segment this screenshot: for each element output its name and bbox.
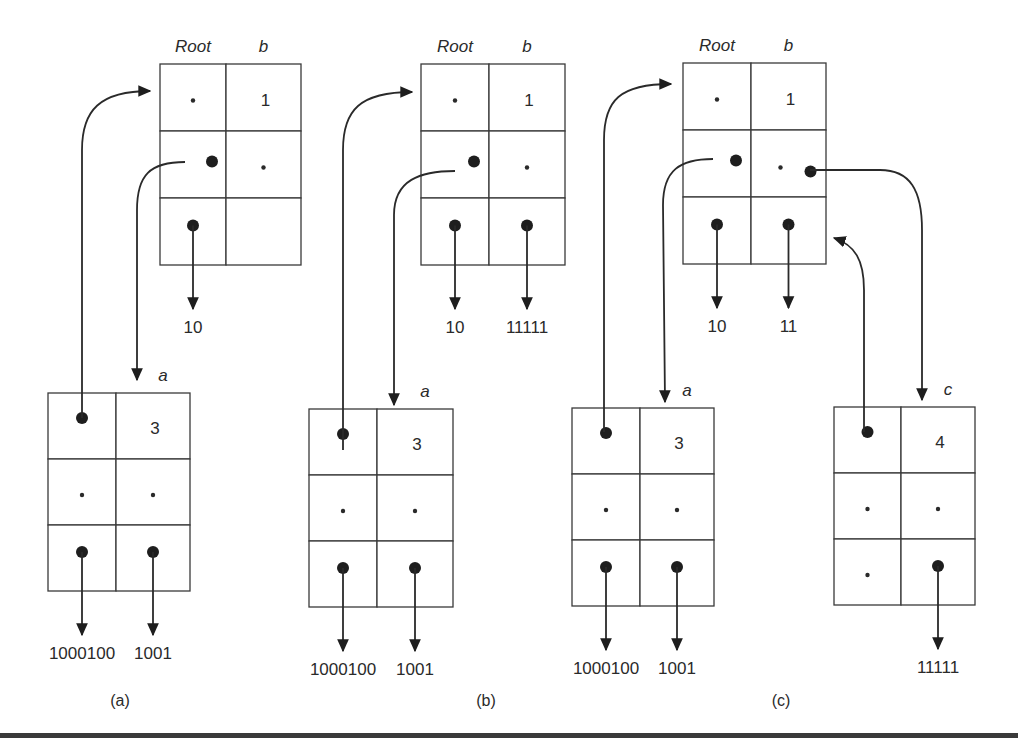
null-marker-dot <box>715 97 719 101</box>
output-value: 1000100 <box>49 644 115 663</box>
table-c-c: 4 <box>834 407 975 605</box>
cell-value: 1 <box>261 91 270 110</box>
cell-value: 3 <box>674 434 683 453</box>
table-cell <box>572 474 640 540</box>
cell-value: 1 <box>524 91 533 110</box>
panel-caption: (c) <box>772 692 791 709</box>
output-value: 10 <box>708 317 727 336</box>
pointer-dot <box>805 166 817 178</box>
panel-caption: (b) <box>476 692 496 709</box>
output-value: 11 <box>780 317 798 336</box>
panel-caption: (a) <box>110 692 130 709</box>
table-cell <box>48 459 116 525</box>
pointer-dot <box>206 156 218 168</box>
table-cell <box>377 475 453 541</box>
table-cell <box>226 198 301 265</box>
pointer-link-arrow <box>343 92 412 450</box>
bottom-rule <box>0 733 1018 738</box>
column-label-b: b <box>259 37 268 56</box>
pointer-dot <box>730 155 742 167</box>
table-cell <box>640 474 714 540</box>
table-b-a: 3 <box>309 409 453 607</box>
null-marker-dot <box>675 508 679 512</box>
null-marker-dot <box>151 493 155 497</box>
output-value: 11111 <box>917 658 959 677</box>
table-cell <box>901 473 975 539</box>
cell-value: 3 <box>150 419 159 438</box>
pointer-link-arrow <box>82 91 150 418</box>
table-cell <box>160 64 226 131</box>
null-marker-dot <box>341 509 345 513</box>
column-label-b: b <box>784 36 793 55</box>
table-a-root: 1 <box>160 64 301 265</box>
output-value: 11111 <box>506 318 548 337</box>
null-marker-dot <box>936 507 940 511</box>
table-b-root: 1 <box>421 64 565 265</box>
null-marker-dot <box>191 98 195 102</box>
table-cell <box>116 459 190 525</box>
output-value: 1001 <box>658 659 696 678</box>
pointer-dot <box>468 156 480 168</box>
table-cell <box>226 131 301 198</box>
null-marker-dot <box>80 493 84 497</box>
null-marker-dot <box>525 165 529 169</box>
pointer-link-arrow <box>604 84 671 432</box>
cell-value: 4 <box>935 433 944 452</box>
column-label-root: Root <box>437 37 474 56</box>
pointer-link-arrow <box>834 238 864 432</box>
column-label-a: a <box>682 381 691 400</box>
table-cell <box>309 475 377 541</box>
table-cell <box>834 539 901 605</box>
column-label-a: a <box>158 366 167 385</box>
column-label-root: Root <box>699 36 736 55</box>
pointer-dot <box>600 427 612 439</box>
null-marker-dot <box>865 507 869 511</box>
cell-value: 1 <box>786 90 795 109</box>
output-value: 1001 <box>396 660 434 679</box>
table-cell <box>751 130 826 197</box>
table-cell <box>489 131 565 198</box>
table-cell <box>572 408 640 474</box>
output-value: 10 <box>446 318 465 337</box>
column-label-root: Root <box>175 37 212 56</box>
null-marker-dot <box>604 508 608 512</box>
table-cell <box>683 63 751 130</box>
null-marker-dot <box>778 165 782 169</box>
column-label-b: b <box>522 37 531 56</box>
trie-pointer-diagram: 1313134 Rootb10a10001001001(a)Rootb10111… <box>0 0 1018 752</box>
null-marker-dot <box>453 98 457 102</box>
null-marker-dot <box>413 509 417 513</box>
cell-value: 3 <box>412 435 421 454</box>
table-a-a: 3 <box>48 393 190 591</box>
table-cell <box>421 64 489 131</box>
pointer-link-arrow <box>810 170 922 400</box>
column-label-c: c <box>944 380 953 399</box>
output-value: 1000100 <box>573 659 639 678</box>
null-marker-dot <box>261 165 265 169</box>
table-c-a: 3 <box>572 408 714 606</box>
output-value: 1000100 <box>310 660 376 679</box>
column-label-a: a <box>420 382 429 401</box>
table-c-root: 1 <box>683 63 826 264</box>
output-value: 1001 <box>134 644 172 663</box>
table-cell <box>834 473 901 539</box>
null-marker-dot <box>865 573 869 577</box>
table-cell <box>834 407 901 473</box>
output-value: 10 <box>184 318 203 337</box>
